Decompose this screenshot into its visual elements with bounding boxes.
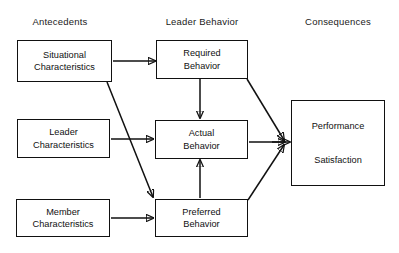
node-line-1: Member (46, 206, 80, 219)
node-leader-characteristics: Leader Characteristics (17, 119, 110, 158)
node-required-behavior: Required Behavior (156, 40, 248, 79)
edge-required-to-outcomes (247, 79, 284, 140)
node-line-2: Behavior (183, 140, 219, 153)
node-situational-characteristics: Situational Characteristics (17, 40, 112, 82)
node-line-2: Behavior (183, 218, 219, 231)
node-line-1: Preferred (182, 206, 220, 219)
node-line-2: Behavior (184, 60, 220, 73)
node-line-2: Characteristics (33, 218, 94, 231)
node-line-1: Actual (189, 127, 215, 140)
node-line-2: Satisfaction (314, 154, 362, 167)
diagram-canvas: Antecedents Leader Behavior Consequences (0, 0, 399, 253)
edge-preferred-to-outcomes (248, 145, 284, 200)
node-preferred-behavior: Preferred Behavior (155, 199, 248, 237)
node-line-2: Characteristics (33, 139, 94, 152)
node-member-characteristics: Member Characteristics (16, 199, 110, 237)
node-line-2: Characteristics (34, 61, 95, 74)
node-line-1: Leader (49, 126, 78, 139)
node-actual-behavior: Actual Behavior (155, 120, 248, 159)
node-line-1: Situational (43, 49, 86, 62)
node-line-1: Required (183, 47, 220, 60)
node-outcomes: Performance Satisfaction (291, 100, 385, 186)
node-line-1: Performance (312, 120, 365, 133)
